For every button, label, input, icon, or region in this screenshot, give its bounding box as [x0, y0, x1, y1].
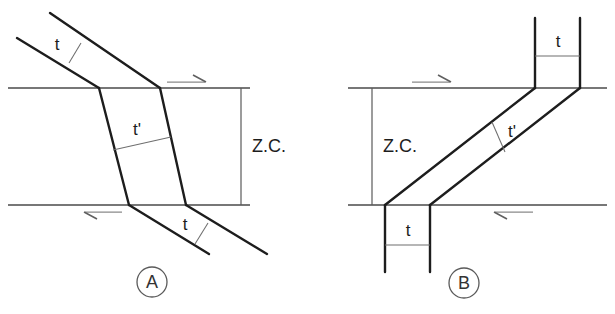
panel-a-vein-inzone-left-edge: [99, 88, 129, 205]
panel-b-thickness-tick-inzone: [492, 122, 505, 152]
panel-b-shear-arrow-top-head: [438, 75, 451, 82]
panel-a-label-t-lower: t: [183, 215, 188, 234]
panel-b-label-t-lower: t: [406, 221, 411, 240]
panel-a-shear-arrow-top-head: [193, 75, 206, 82]
panel-b-label-t-prime: t': [508, 122, 516, 141]
panel-a-label-zc: Z.C.: [252, 136, 286, 156]
panel-b-shear-arrow-bottom-head: [494, 212, 507, 219]
panel-a-thickness-tick-inzone: [113, 137, 171, 150]
panel-a-badge-label: A: [146, 272, 158, 292]
panel-a: t t' t Z.C. A: [8, 13, 286, 297]
panel-a-thickness-tick-upper: [69, 43, 81, 63]
panel-a-thickness-tick-lower: [195, 223, 208, 244]
panel-b: t t t' Z.C. B: [348, 18, 607, 298]
panel-b-vein-inzone-lower-edge: [430, 88, 580, 205]
panel-b-badge-label: B: [458, 273, 470, 293]
shear-zone-diagram: t t' t Z.C. A: [0, 0, 615, 314]
panel-b-label-zc: Z.C.: [383, 136, 417, 156]
panel-a-shear-arrow-bottom-head: [84, 212, 97, 219]
panel-b-label-t-upper: t: [556, 32, 561, 51]
panel-a-label-t-upper: t: [55, 35, 60, 54]
panel-a-vein-inzone-right-edge: [160, 88, 186, 205]
panel-a-vein-upper-upper-edge: [50, 13, 160, 88]
panel-a-label-t-prime: t': [133, 120, 141, 139]
figure-root: t t' t Z.C. A: [0, 0, 615, 314]
